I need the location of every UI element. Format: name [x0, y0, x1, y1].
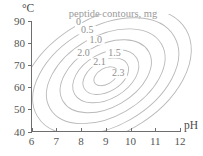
x-tick-label: 9 — [103, 135, 109, 147]
x-tick-label: 6 — [29, 135, 35, 147]
x-tick-label: 11 — [150, 135, 161, 147]
y-axis-title: °C — [22, 2, 35, 14]
x-tick-label: 7 — [54, 135, 60, 147]
y-axis-ticks: 405060708090 — [14, 15, 32, 138]
y-tick-label: 80 — [14, 37, 26, 49]
contour-label: 2.1 — [93, 56, 106, 67]
contour-label: 1.0 — [90, 34, 103, 45]
contour-label: 1.5 — [108, 47, 121, 58]
contour-line — [47, 25, 164, 128]
axes-group — [32, 21, 181, 132]
contour-line — [12, 0, 199, 156]
x-axis-title: pH — [184, 119, 198, 132]
y-tick-label: 40 — [14, 126, 26, 138]
chart-title: peptide contours, mg — [69, 8, 158, 19]
contour-labels-group: 00.51.01.52.02.12.3 — [75, 16, 127, 78]
contour-plot-figure: peptide contours, mg 405060708090 678910… — [0, 0, 203, 156]
y-tick-label: 60 — [14, 81, 26, 93]
contour-lines-group — [0, 0, 203, 156]
contour-label: 2.0 — [77, 47, 90, 58]
y-tick-label: 50 — [14, 103, 26, 115]
x-tick-label: 12 — [175, 135, 186, 147]
x-tick-label: 10 — [125, 135, 137, 147]
x-tick-label: 8 — [78, 135, 84, 147]
y-tick-label: 70 — [14, 59, 26, 71]
contour-label: 2.3 — [112, 67, 125, 78]
contour-line — [30, 9, 182, 143]
plot-canvas: peptide contours, mg 405060708090 678910… — [0, 0, 203, 156]
y-tick-label: 90 — [14, 15, 26, 27]
